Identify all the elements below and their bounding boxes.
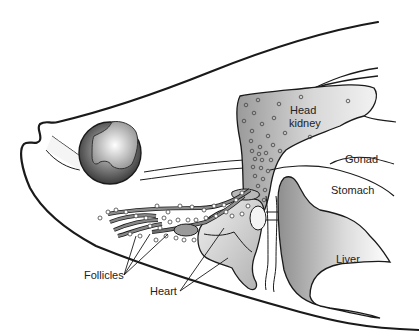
diagram-canvas bbox=[0, 0, 419, 332]
label-head-kidney-line1: Head bbox=[290, 104, 316, 116]
gonad-upper-outline bbox=[364, 116, 396, 122]
label-heart: Heart bbox=[150, 285, 177, 297]
nerve-line-1 bbox=[144, 160, 244, 172]
label-gonad: Gonad bbox=[345, 153, 378, 165]
eye bbox=[79, 121, 141, 184]
jaw-fill bbox=[46, 136, 80, 170]
follicles-leader-lines bbox=[124, 234, 168, 275]
label-follicles: Follicles bbox=[84, 269, 124, 281]
fish-anatomy-diagram: Head kidney Gonad Stomach Liver Follicle… bbox=[0, 0, 419, 332]
label-head-kidney-line2: kidney bbox=[289, 117, 321, 129]
label-stomach: Stomach bbox=[331, 184, 374, 196]
label-liver: Liver bbox=[336, 253, 360, 265]
liver bbox=[278, 177, 390, 318]
vessels bbox=[265, 196, 278, 292]
